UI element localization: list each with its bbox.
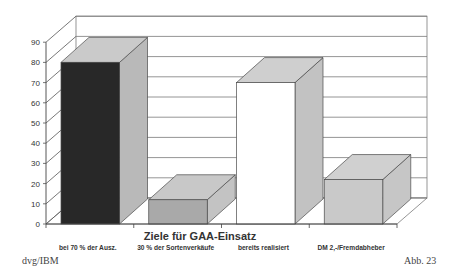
y-tick-label: 60 [31,99,40,108]
source-credit: dvg/IBM [22,255,59,267]
category-label: DM 2,-/Fremdabheber [317,244,385,252]
side-wall-gridline [46,16,76,42]
category-label: bei 70 % der Ausz. [59,244,117,251]
y-tick-label: 70 [31,79,40,88]
y-tick-label: 20 [31,180,40,189]
y-tick-label: 0 [36,220,41,229]
y-tick-label: 50 [31,119,40,128]
y-tick-label: 40 [31,139,40,148]
y-tick-label: 90 [31,38,40,47]
bar-side-face [295,58,323,224]
bar-front-face [237,83,296,224]
category-label: 30 % der Sortenverkäufe [137,244,214,251]
y-tick-label: 30 [31,159,40,168]
bar-1 [61,37,148,224]
x-axis-title: Ziele für GAA-Einsatz [144,230,257,242]
bar-front-face [149,200,208,224]
y-tick-label: 80 [31,58,40,67]
category-label: bereits realisiert [238,244,290,251]
bar-3 [237,58,324,224]
y-tick-label: 10 [31,200,40,209]
figure-number: Abb. 23 [404,255,436,267]
bar-front-face [61,62,120,224]
bar-side-face [120,37,148,224]
bar-front-face [324,180,383,224]
bar-chart-3d: 0102030405060708090Ziele für GAA-Einsatz… [0,0,454,276]
